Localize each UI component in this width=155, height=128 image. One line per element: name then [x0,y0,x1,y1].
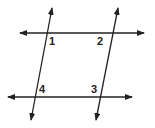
right-transversal [96,8,118,120]
diagram-svg: 1 2 4 3 [0,0,155,128]
angle-label-3: 3 [91,83,97,95]
left-transversal [31,8,52,120]
angle-label-4: 4 [39,83,46,95]
angle-label-2: 2 [97,35,103,47]
parallel-lines-diagram: 1 2 4 3 [0,0,155,128]
angle-labels: 1 2 4 3 [39,35,103,95]
angle-label-1: 1 [49,35,55,47]
lines-group [8,8,144,120]
